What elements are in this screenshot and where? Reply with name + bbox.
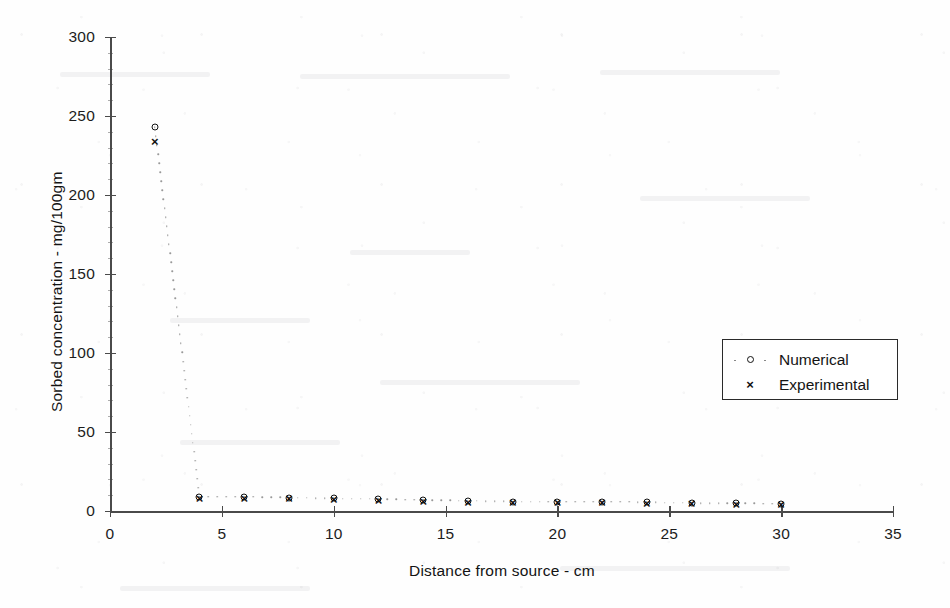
connector-dot <box>512 501 514 503</box>
y-minor-tick <box>108 100 113 101</box>
y-minor-tick <box>108 227 113 228</box>
connector-dot <box>185 379 187 381</box>
y-tick-mark <box>105 432 116 433</box>
x-tick-mark <box>222 506 223 517</box>
cross-marker-icon: × <box>196 492 204 505</box>
y-minor-tick <box>108 179 113 180</box>
x-tick-mark <box>781 506 782 517</box>
connector-dot <box>673 502 675 504</box>
connector-dot <box>279 497 281 499</box>
connector-dot <box>664 502 666 504</box>
connector-dot <box>155 135 157 137</box>
connector-dot <box>235 496 237 498</box>
connector-dot <box>199 496 201 498</box>
cross-marker-icon: × <box>733 497 741 510</box>
cross-marker-icon: × <box>419 494 427 507</box>
x-tick-label: 0 <box>106 525 115 543</box>
connector-dot <box>351 498 353 500</box>
cross-marker-icon: × <box>285 492 293 505</box>
y-minor-tick <box>108 337 113 338</box>
connector-dot <box>476 500 478 502</box>
connector-dot <box>226 496 228 498</box>
connector-dot <box>378 498 380 500</box>
connector-dot <box>655 502 657 504</box>
cross-marker-icon: × <box>240 491 248 504</box>
connector-dot <box>440 500 442 502</box>
y-minor-tick <box>108 495 113 496</box>
connector-dot <box>449 500 451 502</box>
legend-item: Numerical <box>733 347 881 372</box>
connector-dot <box>584 501 586 503</box>
connector-dot <box>288 497 290 499</box>
circle-marker-icon <box>375 496 382 503</box>
legend-label: Numerical <box>767 351 849 369</box>
legend-item: × Experimental <box>733 372 881 397</box>
connector-dot <box>718 502 720 504</box>
circle-marker-icon <box>241 493 248 500</box>
connector-dot <box>333 498 335 500</box>
connector-dot <box>306 497 308 499</box>
connector-dot <box>557 501 559 503</box>
connector-dot <box>162 189 164 191</box>
connector-dot <box>771 503 773 505</box>
y-tick-mark <box>105 116 116 117</box>
connector-dot <box>324 497 326 499</box>
x-axis-title: Distance from source - cm <box>409 562 595 580</box>
x-tick-label: 20 <box>549 525 567 543</box>
circle-marker-icon <box>151 124 158 131</box>
plot-area: 050100150200250300 05101520253035 ××××××… <box>0 0 950 608</box>
x-tick-label: 25 <box>660 525 678 543</box>
connector-dot <box>252 496 254 498</box>
y-tick-mark <box>105 274 116 275</box>
circle-marker-icon <box>554 498 561 505</box>
connector-dot <box>183 370 185 372</box>
cross-marker-icon: × <box>643 497 651 510</box>
connector-dot <box>208 496 210 498</box>
y-minor-tick <box>108 163 113 164</box>
circle-marker-icon <box>643 499 650 506</box>
connector-dot <box>485 500 487 502</box>
circle-marker-icon <box>196 493 203 500</box>
y-minor-tick <box>108 369 113 370</box>
x-tick-mark <box>446 506 447 517</box>
connector-dot <box>198 487 200 489</box>
y-tick-label: 50 <box>40 423 95 441</box>
connector-dot <box>521 501 523 503</box>
connector-dot <box>169 253 171 255</box>
y-axis-title: Sorbed concentration - mg/100gm <box>48 171 66 412</box>
y-minor-tick <box>108 385 113 386</box>
x-axis-line <box>110 511 894 513</box>
chart-legend: Numerical × Experimental <box>722 339 898 400</box>
x-tick-mark <box>893 506 894 517</box>
connector-dot <box>193 451 195 453</box>
connector-dot <box>754 503 756 505</box>
cross-marker-icon: × <box>375 493 383 506</box>
connector-dot <box>179 334 181 336</box>
y-tick-label: 0 <box>40 502 95 520</box>
connector-dot <box>261 496 263 498</box>
y-tick-mark <box>105 37 116 38</box>
connector-dot <box>646 502 648 504</box>
connector-dot <box>333 498 335 500</box>
connector-dot <box>422 499 424 501</box>
y-minor-tick <box>108 400 113 401</box>
y-tick-label: 300 <box>40 28 95 46</box>
connector-dot <box>270 497 272 499</box>
connector-dot <box>619 501 621 503</box>
connector-dot <box>405 499 407 501</box>
connector-dot <box>700 502 702 504</box>
connector-dot <box>159 171 161 173</box>
connector-dot <box>288 497 290 499</box>
connector-dot <box>167 235 169 237</box>
connector-dot <box>199 496 201 498</box>
x-tick-label: 10 <box>325 525 343 543</box>
connector-dot <box>175 298 177 300</box>
x-tick-mark <box>557 506 558 517</box>
connector-dot <box>182 361 184 363</box>
connector-dot <box>187 397 189 399</box>
connector-dot <box>178 325 180 327</box>
connector-dot <box>171 271 173 273</box>
legend-label: Experimental <box>767 376 869 394</box>
y-minor-tick <box>108 448 113 449</box>
connector-dot <box>575 501 577 503</box>
